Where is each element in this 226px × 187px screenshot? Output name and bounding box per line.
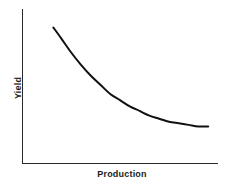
x-axis-label: Production [0, 170, 226, 179]
y-axis-label: Yield [14, 77, 23, 99]
plot-area [0, 0, 226, 187]
chart-figure: Yield Production [0, 0, 226, 187]
data-series-curve [53, 28, 208, 127]
